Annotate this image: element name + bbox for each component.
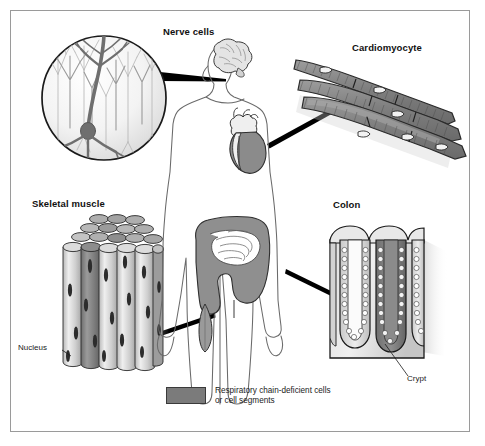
panel-label-skeletal-muscle: Skeletal muscle bbox=[32, 198, 105, 209]
panel-label-nerve-cells: Nerve cells bbox=[163, 26, 214, 37]
muscle-fiber bbox=[135, 244, 155, 370]
callout-label-nucleus: Nucleus bbox=[18, 343, 47, 352]
colon-crypt bbox=[330, 243, 336, 346]
skeletal-muscle-panel bbox=[62, 215, 170, 371]
nerve-cells-inset bbox=[39, 6, 166, 173]
cardiomyocyte-panel bbox=[294, 60, 466, 168]
callout-label-crypt: Crypt bbox=[407, 374, 426, 383]
legend-swatch-deficient bbox=[166, 387, 206, 404]
figure-root: Nerve cells Cardiomyocyte Skeletal muscl… bbox=[0, 0, 485, 446]
legend: Respiratory chain-deficient cells or cel… bbox=[166, 386, 331, 407]
colon-crypt bbox=[412, 240, 424, 346]
panel-label-colon: Colon bbox=[333, 199, 360, 210]
brain-organ bbox=[214, 39, 252, 77]
connector-nerve-to-brain bbox=[160, 72, 226, 82]
colon-panel bbox=[330, 226, 448, 376]
colon-crypt-deficient bbox=[376, 240, 406, 352]
muscle-fiber bbox=[63, 242, 83, 366]
connector-colon-to-colonblock bbox=[285, 269, 331, 296]
panel-label-cardiomyocyte: Cardiomyocyte bbox=[352, 42, 422, 53]
heart-organ bbox=[230, 108, 266, 173]
legend-text: Respiratory chain-deficient cells or cel… bbox=[215, 386, 331, 407]
intestines bbox=[196, 217, 270, 352]
muscle-fiber-tops-back bbox=[72, 215, 163, 244]
colon-crypt bbox=[340, 240, 370, 348]
muscle-fiber bbox=[99, 243, 119, 369]
